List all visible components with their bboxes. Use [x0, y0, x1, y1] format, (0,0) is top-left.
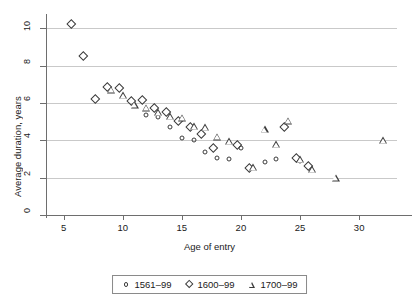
x-axis-title: Age of entry [0, 241, 419, 252]
legend-label: 1561–99 [135, 279, 172, 290]
y-axis-line [46, 14, 47, 218]
data-point [203, 149, 208, 154]
circle-marker [203, 149, 208, 154]
data-point [237, 145, 244, 152]
data-point [166, 113, 174, 120]
data-point [142, 104, 150, 111]
circle-marker [227, 156, 232, 161]
x-tick-label-5: 5 [52, 222, 76, 233]
data-point [179, 136, 184, 141]
triangle-marker [332, 174, 340, 181]
legend-label: 1700–99 [260, 279, 297, 290]
legend: 1561–991600–991700–99 [112, 275, 308, 294]
legend-item-triangle: 1700–99 [247, 279, 297, 290]
triangle-glyph [249, 282, 255, 288]
x-tick-label-15: 15 [170, 222, 194, 233]
data-point [272, 141, 280, 148]
x-tick-label-10: 10 [111, 222, 135, 233]
circle-marker [144, 113, 149, 118]
data-point [285, 127, 292, 134]
triangle-marker [119, 92, 127, 99]
data-point [296, 155, 304, 162]
triangle-marker [284, 117, 292, 124]
x-tick-25 [300, 215, 301, 220]
triangle-marker [261, 126, 269, 133]
y-tick-2 [40, 178, 46, 179]
data-point [214, 149, 221, 156]
y-tick-4 [40, 140, 46, 141]
data-point [178, 114, 186, 121]
triangle-marker [178, 114, 186, 121]
y-tick-label-4: 4 [22, 133, 36, 138]
circle-marker [191, 138, 196, 143]
x-tick-label-30: 30 [347, 222, 371, 233]
x-tick-5 [64, 215, 65, 220]
x-tick-label-25: 25 [288, 222, 312, 233]
legend-item-diamond: 1600–99 [185, 279, 235, 290]
data-point [213, 133, 221, 140]
y-tick-10 [40, 28, 46, 29]
triangle-marker [142, 104, 150, 111]
plot-area [47, 18, 397, 215]
y-tick-label-8: 8 [22, 59, 36, 64]
data-point [131, 101, 139, 108]
circle-marker [262, 159, 267, 164]
data-point [332, 174, 340, 181]
data-point [119, 92, 127, 99]
data-point [261, 126, 269, 133]
triangle-marker [213, 133, 221, 140]
chart-figure: Average duration, years 0246810 51015202… [0, 0, 419, 308]
y-tick-label-2: 2 [22, 171, 36, 176]
data-point [202, 134, 209, 141]
y-tick-0 [40, 215, 46, 216]
data-point [249, 164, 257, 171]
triangle-marker [131, 101, 139, 108]
data-point [72, 25, 79, 32]
triangle-marker [379, 137, 387, 144]
triangle-marker [249, 164, 257, 171]
data-point [274, 156, 279, 161]
data-point [190, 123, 198, 130]
triangle-marker [308, 166, 316, 173]
triangle-marker [190, 123, 198, 130]
data-point [201, 124, 209, 131]
triangle-marker [166, 113, 174, 120]
triangle-marker [107, 86, 115, 93]
circle-marker [274, 156, 279, 161]
legend-item-circle: 1561–99 [122, 279, 172, 290]
x-tick-20 [241, 215, 242, 220]
data-point [95, 99, 102, 106]
data-point [83, 56, 90, 63]
triangle-icon [247, 280, 256, 289]
legend-label: 1600–99 [198, 279, 235, 290]
circle-glyph [124, 282, 128, 286]
gridline-y-10 [47, 28, 397, 29]
gridline-y-2 [47, 178, 397, 179]
circle-marker [167, 125, 172, 130]
data-point [107, 86, 115, 93]
data-point [215, 156, 220, 161]
circle-icon [122, 280, 131, 289]
x-tick-10 [123, 215, 124, 220]
y-tick-label-6: 6 [22, 96, 36, 101]
data-point [284, 117, 292, 124]
gridlines [47, 18, 397, 215]
triangle-marker [272, 141, 280, 148]
circle-marker [215, 156, 220, 161]
x-tick-15 [182, 215, 183, 220]
data-point [154, 109, 162, 116]
data-point [144, 113, 149, 118]
data-point [178, 122, 185, 129]
diamond-icon [185, 280, 194, 289]
circle-marker [179, 136, 184, 141]
gridline-y-4 [47, 140, 397, 141]
y-tick-8 [40, 66, 46, 67]
x-tick-label-20: 20 [229, 222, 253, 233]
triangle-marker [296, 155, 304, 162]
data-point [308, 166, 316, 173]
x-axis-line [46, 215, 412, 216]
y-tick-label-0: 0 [22, 208, 36, 213]
data-point [191, 138, 196, 143]
data-point [225, 138, 233, 145]
triangle-marker [154, 109, 162, 116]
